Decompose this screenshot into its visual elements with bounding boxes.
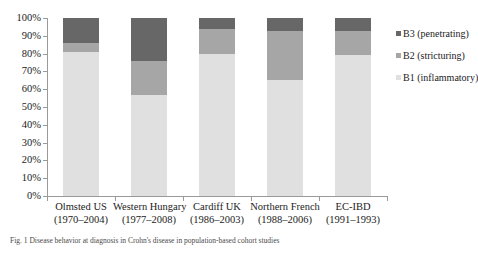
- y-axis-label: 100%: [0, 13, 41, 23]
- bar-cardiff-uk[interactable]: [199, 18, 235, 196]
- chart-legend: B3 (penetrating) B2 (stricturing) B1 (in…: [396, 22, 456, 88]
- category-name: Northern French: [249, 200, 321, 213]
- bar-segment-b1: [131, 95, 167, 197]
- category-name: Cardiff UK: [183, 200, 251, 213]
- bar-ec-ibd[interactable]: [335, 18, 371, 196]
- bar-segment-b3: [63, 18, 99, 43]
- category-name: Olmsted US: [47, 200, 115, 213]
- y-axis-label: 10%: [0, 173, 41, 183]
- bar-segment-b2: [199, 29, 235, 54]
- x-tick: [387, 196, 388, 201]
- y-axis-label: 30%: [0, 138, 41, 148]
- bar-segment-b3: [199, 18, 235, 29]
- category-label-olmsted-us: Olmsted US (1970–2004): [47, 200, 115, 226]
- y-axis-label: 80%: [0, 49, 41, 59]
- bar-segment-b1: [199, 54, 235, 196]
- bar-segment-b3: [335, 18, 371, 31]
- bar-segment-b3: [267, 18, 303, 31]
- category-label-northern-french: Northern French (1988–2006): [249, 200, 321, 226]
- y-axis-label: 50%: [0, 102, 41, 112]
- legend-swatch-icon: [396, 31, 401, 36]
- bar-segment-b2: [335, 31, 371, 56]
- category-period: (1991–1993): [319, 213, 387, 226]
- category-period: (1977–2008): [113, 213, 185, 226]
- bar-northern-french[interactable]: [267, 18, 303, 196]
- category-period: (1986–2003): [183, 213, 251, 226]
- category-label-western-hungary: Western Hungary (1977–2008): [113, 200, 185, 226]
- category-name: Western Hungary: [113, 200, 185, 213]
- bar-segment-b2: [267, 31, 303, 81]
- category-name: EC-IBD: [319, 200, 387, 213]
- legend-label: B3 (penetrating): [403, 28, 469, 39]
- x-axis-line: [47, 196, 387, 197]
- category-period: (1970–2004): [47, 213, 115, 226]
- legend-item-b2[interactable]: B2 (stricturing): [396, 44, 456, 66]
- bar-segment-b3: [131, 18, 167, 61]
- bar-segment-b1: [335, 55, 371, 196]
- category-label-ec-ibd: EC-IBD (1991–1993): [319, 200, 387, 226]
- figure-caption: Fig. 1 Disease behavior at diagnosis in …: [10, 236, 448, 245]
- bar-segment-b1: [63, 52, 99, 196]
- bar-segment-b2: [131, 61, 167, 95]
- legend-item-b1[interactable]: B1 (inflammatory): [396, 66, 456, 88]
- legend-item-b3[interactable]: B3 (penetrating): [396, 22, 456, 44]
- y-axis-label: 60%: [0, 84, 41, 94]
- y-axis-label: 0%: [0, 191, 41, 201]
- bar-segment-b1: [267, 80, 303, 196]
- bar-olmsted-us[interactable]: [63, 18, 99, 196]
- category-period: (1988–2006): [249, 213, 321, 226]
- plot-area: [47, 18, 402, 196]
- y-axis-label: 20%: [0, 155, 41, 165]
- bar-segment-b2: [63, 43, 99, 52]
- y-axis-label: 40%: [0, 120, 41, 130]
- category-label-cardiff-uk: Cardiff UK (1986–2003): [183, 200, 251, 226]
- legend-label: B1 (inflammatory): [403, 72, 478, 83]
- legend-swatch-icon: [396, 53, 401, 58]
- legend-swatch-icon: [396, 75, 401, 80]
- y-axis-label: 90%: [0, 31, 41, 41]
- legend-label: B2 (stricturing): [403, 50, 465, 61]
- y-axis-label: 70%: [0, 66, 41, 76]
- bar-western-hungary[interactable]: [131, 18, 167, 196]
